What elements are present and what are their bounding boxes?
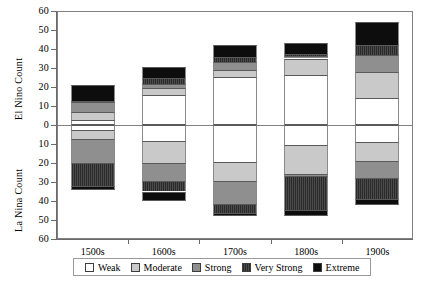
legend-label: Moderate [144, 262, 182, 273]
bar-segment-elnino-1500s-strong [71, 102, 115, 112]
bar-column-1500s [71, 0, 115, 288]
bar-segment-lanina-1700s-strong [213, 181, 257, 204]
y-axis-tick [51, 201, 57, 202]
x-axis-tick [199, 239, 200, 244]
x-axis-tick-label: 1600s [128, 246, 199, 257]
chart-legend: WeakModerateStrongVery StrongExtreme [73, 258, 371, 276]
bar-segment-lanina-1600s-moderate [142, 141, 186, 163]
bar-segment-elnino-1900s-weak [355, 98, 399, 125]
legend-swatch-icon [192, 263, 201, 272]
y-axis-tick [51, 87, 57, 88]
bar-segment-lanina-1800s-moderate [284, 145, 328, 174]
bar-segment-elnino-1900s-extreme [355, 22, 399, 45]
legend-label: Weak [98, 262, 121, 273]
y-axis-tick [51, 49, 57, 50]
legend-item-strong: Strong [192, 262, 232, 273]
bar-column-1900s [355, 0, 399, 288]
bar-segment-lanina-1500s-strong [71, 139, 115, 163]
bar-segment-lanina-1900s-moderate [355, 142, 399, 161]
bar-segment-elnino-1800s-strong [284, 56, 328, 59]
bar-segment-elnino-1700s-extreme [213, 45, 257, 56]
y-axis-tick [51, 125, 57, 126]
legend-label: Very Strong [255, 262, 303, 273]
y-axis-tick [51, 68, 57, 69]
y-axis-tick-label: 10 [3, 101, 49, 111]
y-axis-tick-label: 60 [3, 234, 49, 244]
x-axis-tick [271, 239, 272, 244]
legend-label: Extreme [326, 262, 360, 273]
bar-segment-lanina-1700s-weak [213, 125, 257, 162]
bar-segment-lanina-1600s-extreme [142, 192, 186, 202]
bar-segment-lanina-1800s-very-strong [284, 176, 328, 209]
y-axis-tick-label: 10 [3, 139, 49, 149]
legend-swatch-icon [313, 263, 322, 272]
y-axis-tick-label: 40 [3, 196, 49, 206]
bar-segment-elnino-1700s-strong [213, 62, 257, 70]
bar-segment-elnino-1700s-very-strong [213, 57, 257, 63]
bar-segment-lanina-1700s-extreme [213, 213, 257, 216]
bar-segment-elnino-1800s-weak [284, 75, 328, 125]
legend-swatch-icon [85, 263, 94, 272]
bar-segment-elnino-1900s-very-strong [355, 45, 399, 55]
x-axis-tick [342, 239, 343, 244]
bar-segment-elnino-1500s-very-strong [71, 101, 115, 102]
bar-segment-lanina-1500s-moderate [71, 130, 115, 140]
y-axis-tick-label: 30 [3, 177, 49, 187]
legend-item-very-strong: Very Strong [242, 262, 303, 273]
legend-swatch-icon [242, 263, 251, 272]
legend-swatch-icon [131, 263, 140, 272]
bar-segment-lanina-1500s-extreme [71, 186, 115, 190]
bar-segment-elnino-1900s-moderate [355, 72, 399, 99]
bar-segment-elnino-1600s-moderate [142, 88, 186, 95]
legend-label: Strong [205, 262, 232, 273]
y-axis-tick [51, 239, 57, 240]
legend-item-weak: Weak [85, 262, 121, 273]
bar-segment-elnino-1700s-moderate [213, 70, 257, 77]
legend-item-moderate: Moderate [131, 262, 182, 273]
bar-segment-elnino-1600s-very-strong [142, 78, 186, 84]
bar-segment-elnino-1700s-weak [213, 77, 257, 125]
x-axis-tick [128, 239, 129, 244]
bar-segment-elnino-1500s-extreme [71, 85, 115, 101]
bar-segment-elnino-1800s-extreme [284, 43, 328, 53]
y-axis-tick-label: 20 [3, 82, 49, 92]
bar-segment-elnino-1600s-strong [142, 84, 186, 88]
bar-segment-lanina-1900s-strong [355, 161, 399, 178]
y-axis-tick-label: 40 [3, 44, 49, 54]
bar-segment-lanina-1600s-very-strong [142, 181, 186, 191]
y-axis-tick [51, 30, 57, 31]
y-axis-tick [51, 11, 57, 12]
x-axis-tick-label: 1900s [342, 246, 413, 257]
y-axis-labels: 6050403020100102030405060 [0, 0, 49, 288]
bar-segment-elnino-1800s-very-strong [284, 54, 328, 56]
y-axis-tick [51, 106, 57, 107]
bar-column-1600s [142, 0, 186, 288]
y-axis-tick [51, 220, 57, 221]
x-axis-tick-label: 1800s [271, 246, 342, 257]
bar-segment-lanina-1500s-very-strong [71, 163, 115, 186]
bar-segment-lanina-1600s-weak [142, 125, 186, 141]
bar-segment-lanina-1900s-weak [355, 125, 399, 142]
y-axis-tick-label: 30 [3, 63, 49, 73]
y-axis-tick-label: 20 [3, 158, 49, 168]
stacked-bar-chart: 6050403020100102030405060 El Nino Count … [0, 0, 424, 288]
bar-column-1800s [284, 0, 328, 288]
y-axis-tick-label: 50 [3, 215, 49, 225]
bar-segment-lanina-1700s-moderate [213, 162, 257, 181]
bar-segment-lanina-1800s-weak [284, 125, 328, 145]
y-axis-title-el-nino: El Nino Count [13, 58, 24, 120]
bar-segment-lanina-1600s-strong [142, 163, 186, 181]
bar-segment-lanina-1900s-extreme [355, 199, 399, 205]
y-axis-tick-label: 50 [3, 25, 49, 35]
y-axis-tick [51, 144, 57, 145]
bar-segment-elnino-1600s-weak [142, 95, 186, 125]
bar-segment-lanina-1700s-very-strong [213, 204, 257, 214]
bar-segment-elnino-1900s-strong [355, 55, 399, 72]
legend-item-extreme: Extreme [313, 262, 360, 273]
bar-segment-lanina-1900s-very-strong [355, 178, 399, 199]
bar-column-1700s [213, 0, 257, 288]
y-axis-title-la-nina: La Nina Count [13, 169, 24, 232]
y-axis-tick [51, 182, 57, 183]
bar-segment-lanina-1800s-extreme [284, 210, 328, 217]
y-axis-tick-label: 60 [3, 6, 49, 16]
